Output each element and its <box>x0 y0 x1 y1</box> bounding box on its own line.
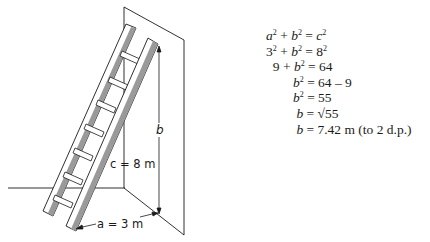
equation-line-1: a2 + b2 = c2 <box>266 28 412 44</box>
hypotenuse-label: c = 8 m <box>110 157 155 171</box>
equation-line-4: b2 = 64 – 9 <box>266 75 412 91</box>
equation-line-6: b = √55 <box>266 106 412 122</box>
pythagoras-working: a2 + b2 = c2 32 + b2 = 82 9 + b2 = 64 b2… <box>266 28 412 137</box>
height-label: b <box>156 123 164 137</box>
equation-line-2: 32 + b2 = 82 <box>266 44 412 60</box>
equation-line-5: b2 = 55 <box>266 90 412 106</box>
ladder-diagram: b c = 8 m a = 3 m <box>0 0 230 242</box>
equation-line-7: b = 7.42 m (to 2 d.p.) <box>266 122 412 138</box>
ladder <box>43 24 158 231</box>
equation-line-3: 9 + b2 = 64 <box>266 59 412 75</box>
base-label: a = 3 m <box>97 217 143 231</box>
